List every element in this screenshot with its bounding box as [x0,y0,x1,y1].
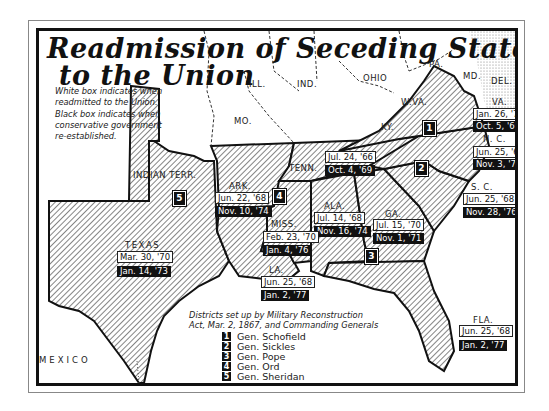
black-box-note: Black box indicates when conservative go… [55,109,162,141]
legend-title: Districts set up by Military Reconstruct… [189,310,378,330]
label-wva: W.VA. [401,97,427,107]
district-marker-3: 3 [365,249,378,264]
district-4-icon: 4 [222,362,231,371]
ala-readmitted: Jul. 14, '68 [314,212,365,224]
ark-conservative: Nov. 10, '74 [215,206,272,217]
state-name-texas: TEXAS [125,240,160,250]
district-1-icon: 1 [222,332,231,341]
miss-readmitted: Feb. 23, '70 [263,231,319,243]
sc-conservative: Nov. 28, '76 [463,207,518,218]
label-pa: PA. [429,59,443,69]
state-name-va: VA. [492,97,507,107]
va-readmitted: Jan. 26, '70 [473,108,518,120]
va-conservative: Oct. 5, '69 [473,121,518,132]
state-name-miss: MISS. [271,219,297,229]
label-mo: MO. [234,116,252,126]
label-ind: IND. [297,79,317,89]
state-name-fla: FLA. [473,315,493,325]
district-marker-2: 2 [415,161,428,176]
state-name-nc: N. C. [483,134,506,144]
label-ohio: OHIO [363,73,387,83]
sc-readmitted: Jun. 25, '68 [463,193,517,205]
fla-conservative: Jan. 2, '77 [459,340,507,351]
label-md: MD. [463,71,481,81]
ga-readmitted: Jul. 15, '70 [373,219,424,231]
texas-conservative: Jan. 14, '73 [117,266,171,277]
label-indian-terr: INDIAN TERR. [133,170,197,180]
miss-conservative: Jan. 4, '76 [263,245,311,256]
tenn-readmitted: Jul. 24, '66 [325,151,376,163]
state-name-ark: ARK. [229,181,251,191]
tenn-conservative: Oct. 4, '69 [325,165,375,176]
legend-item-5: 5 Gen. Sheridan [222,371,305,382]
district-3-icon: 3 [222,352,231,361]
ala-conservative: Nov. 16, '74 [314,226,371,237]
white-box-note: White box indicates when readmitted to t… [55,86,162,108]
nc-conservative: Nov. 3, '70 [473,159,518,170]
district-marker-1: 1 [423,121,436,136]
state-name-tenn: TENN. [289,163,317,173]
state-name-sc: S. C. [471,182,493,192]
label-ky: KY. [381,122,394,132]
district-marker-5: 5 [173,191,186,206]
fla-readmitted: Jun. 25, '68 [459,325,513,337]
label-del: DEL. [491,76,512,86]
ark-readmitted: Jun. 22, '68 [215,192,269,204]
state-name-ga: GA. [385,209,401,219]
nc-readmitted: Jun. 25, '68 [473,146,518,158]
label-mexico: MEXICO [39,355,91,365]
district-2-icon: 2 [222,342,231,351]
district-5-icon: 5 [222,372,231,381]
la-readmitted: Jun. 25, '68 [261,276,315,288]
district-marker-4: 4 [273,189,286,204]
state-name-la: LA. [269,265,284,275]
la-conservative: Jan. 2, '77 [261,290,309,301]
ga-conservative: Nov. 1, '71 [373,233,424,244]
map-frame: Readmission of Seceding States to the Un… [36,28,518,386]
texas-readmitted: Mar. 30, '70 [117,251,173,263]
state-name-ala: ALA. [324,201,345,211]
label-ill: ILL. [249,79,266,89]
